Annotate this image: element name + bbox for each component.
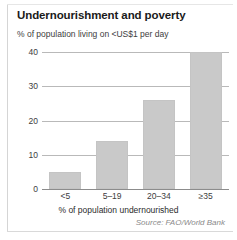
- source-note: Source: FAO/World Bank: [136, 218, 225, 227]
- y-axis-tick-label: 20: [12, 117, 38, 126]
- y-axis-tick-label: 40: [12, 48, 38, 57]
- x-axis-tick-label: 20–34: [136, 192, 183, 201]
- x-axis-tick-label: 5–19: [89, 192, 136, 201]
- y-axis-tick-label: 0: [12, 185, 38, 194]
- x-axis-label: % of population undernourished: [0, 205, 237, 215]
- x-axis-tick-label: <5: [42, 192, 89, 201]
- bar: [49, 172, 81, 189]
- x-axis-tick-label: ≥35: [182, 192, 229, 201]
- bar: [143, 100, 175, 189]
- y-axis-tick-label: 30: [12, 82, 38, 91]
- plot-area: 010203040 <55–1920–34≥35: [0, 0, 237, 240]
- y-axis-tick-label: 10: [12, 151, 38, 160]
- chart-figure: Undernourishment and poverty % of popula…: [0, 0, 237, 240]
- bar: [190, 52, 222, 189]
- bar: [96, 141, 128, 189]
- x-axis-line: [42, 189, 229, 190]
